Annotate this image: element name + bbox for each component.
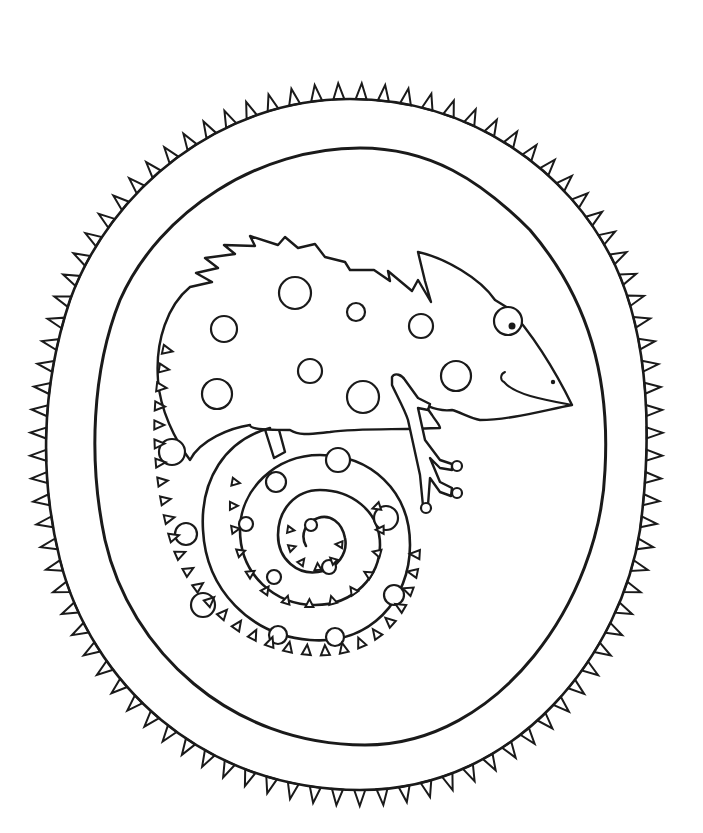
spike — [248, 630, 257, 641]
spike — [246, 571, 255, 579]
spot — [298, 359, 322, 383]
spike — [378, 85, 389, 102]
spike — [646, 405, 662, 416]
spike — [644, 383, 660, 394]
toe-tip — [421, 503, 431, 513]
spike — [154, 420, 164, 429]
spike — [329, 596, 337, 605]
toe-tip — [452, 461, 462, 471]
spot — [202, 379, 232, 409]
eye-pupil — [509, 323, 516, 330]
spike — [287, 526, 294, 533]
spot — [305, 519, 317, 531]
spike — [333, 83, 344, 99]
spot — [239, 517, 253, 531]
spike — [283, 642, 292, 653]
tail-outer-curve — [203, 428, 410, 640]
toe-tip — [452, 488, 462, 498]
eye — [494, 307, 522, 335]
spike — [30, 428, 46, 439]
spot — [175, 523, 197, 545]
spike — [557, 176, 572, 191]
spot — [441, 361, 471, 391]
spike — [332, 789, 343, 805]
spike — [231, 526, 239, 534]
spike — [410, 550, 420, 559]
chameleon — [154, 236, 572, 655]
spike — [647, 427, 663, 438]
spike — [160, 496, 171, 505]
spike — [311, 85, 322, 102]
spot — [211, 316, 237, 342]
spike — [33, 494, 50, 505]
spot — [266, 472, 286, 492]
spike — [373, 629, 382, 640]
spike — [31, 472, 47, 483]
spike — [385, 618, 395, 628]
spot — [326, 448, 350, 472]
spike — [340, 643, 349, 654]
coloring-page — [0, 0, 703, 833]
spike — [182, 568, 193, 577]
spot — [409, 314, 433, 338]
spike — [297, 559, 304, 567]
spike — [335, 541, 342, 548]
spike — [129, 178, 144, 193]
spike — [643, 494, 659, 505]
spike — [127, 695, 142, 710]
spike — [350, 587, 358, 596]
spike — [32, 405, 48, 416]
spike — [645, 472, 661, 483]
frame-spikes — [30, 83, 663, 806]
spike — [217, 610, 227, 620]
spike — [302, 645, 311, 655]
spike — [646, 450, 662, 461]
spike — [305, 599, 313, 607]
spike — [230, 502, 238, 510]
outer-frame-oval — [46, 99, 647, 790]
spike — [372, 502, 381, 510]
spot — [267, 570, 281, 584]
spike — [232, 621, 241, 632]
spike — [231, 478, 240, 486]
spike — [356, 83, 367, 99]
spike — [407, 569, 418, 578]
spike — [30, 450, 46, 461]
spike — [354, 790, 365, 806]
spike — [314, 563, 321, 570]
spike — [377, 789, 388, 805]
spot — [279, 277, 311, 309]
spike — [157, 478, 167, 487]
nostril — [551, 380, 555, 384]
spike — [192, 583, 203, 592]
illustration — [0, 0, 703, 833]
spike — [321, 645, 330, 655]
spike — [164, 515, 175, 524]
spike — [288, 545, 296, 552]
spike — [358, 638, 366, 649]
spike — [395, 604, 406, 613]
spot — [347, 303, 365, 321]
chameleon-body — [158, 236, 572, 460]
spike — [364, 572, 373, 579]
spike — [640, 516, 657, 527]
spot — [347, 381, 379, 413]
spike — [261, 587, 269, 596]
spike — [174, 552, 185, 560]
spike — [373, 550, 382, 558]
